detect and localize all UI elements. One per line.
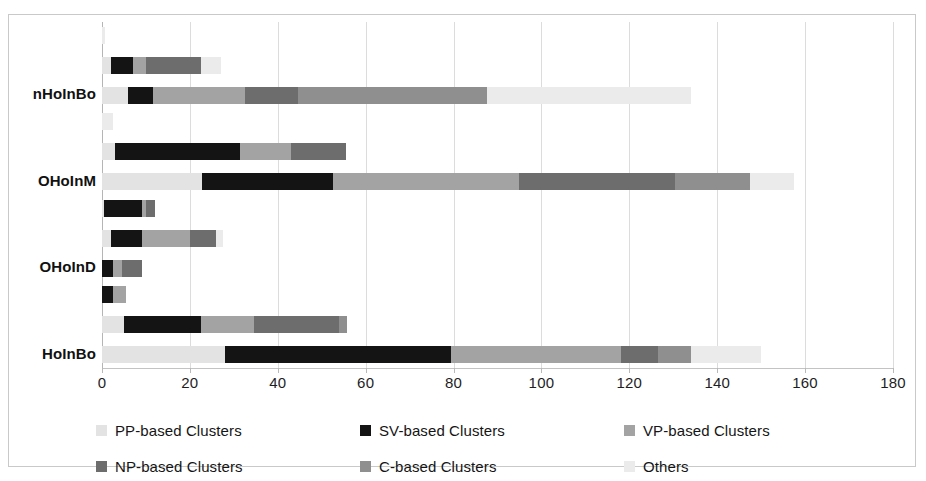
gridline [805,22,806,368]
bar-segment [124,316,201,333]
bar-segment [102,87,128,104]
gridline [454,22,455,368]
bar-segment [133,57,146,74]
bar-segment [102,346,225,363]
bar-segment [519,173,675,190]
gridline [366,22,367,368]
category-label-ohoinm: OHoInM [0,172,96,189]
x-axis-tick-label: 60 [336,374,396,391]
bar-segment [225,346,451,363]
bar-segment [111,230,142,247]
bar-segment [153,87,245,104]
category-label-nhoinbo: nHoInBo [0,85,96,102]
x-axis-tick-mark [454,368,455,373]
x-axis-tick-label: 140 [687,374,747,391]
legend-label: C-based Clusters [379,458,496,475]
bar-segment [142,230,190,247]
bar-segment [122,260,142,277]
bar-segment [102,316,124,333]
stacked-bar-chart: 020406080100120140160180 nHoInBoOHoInMOH… [0,0,926,481]
chart-legend: PP-based ClustersSV-based ClustersVP-bas… [96,412,896,481]
category-label-ohoind: OHoInD [0,258,96,275]
bar-segment [113,286,126,303]
x-axis-tick-label: 160 [775,374,835,391]
legend-item[interactable]: C-based Clusters [360,458,624,475]
legend-label: NP-based Clusters [115,458,243,475]
bar-segment [675,173,750,190]
x-axis-tick-label: 80 [424,374,484,391]
legend-swatch-icon [96,425,107,436]
legend-label: PP-based Clusters [115,422,242,439]
bar-segment [750,173,794,190]
bar-segment [202,173,333,190]
bar-segment [111,57,133,74]
legend-swatch-icon [624,425,635,436]
legend-label: SV-based Clusters [379,422,505,439]
legend-item[interactable]: PP-based Clusters [96,422,360,439]
gridline [541,22,542,368]
gridline [717,22,718,368]
x-axis-tick-label: 100 [511,374,571,391]
x-axis-tick-label: 20 [160,374,220,391]
bar-segment [254,316,340,333]
bar-segment [102,173,202,190]
legend-swatch-icon [96,461,107,472]
bar-segment [104,200,141,217]
x-axis-tick-mark [717,368,718,373]
bar-segment [113,260,122,277]
x-axis-tick-mark [366,368,367,373]
bar-segment [201,57,221,74]
x-axis-tick-mark [629,368,630,373]
x-axis-tick-label: 0 [72,374,132,391]
gridline [629,22,630,368]
x-axis-tick-label: 180 [863,374,923,391]
legend-label: VP-based Clusters [643,422,770,439]
x-axis-tick-mark [805,368,806,373]
bar-segment [339,316,347,333]
bar-segment [146,200,155,217]
bar-segment [240,143,291,160]
x-axis-tick-mark [278,368,279,373]
legend-item[interactable]: Others [624,458,888,475]
bar-segment [190,230,216,247]
legend-item[interactable]: NP-based Clusters [96,458,360,475]
bar-segment [102,230,111,247]
bar-segment [128,87,152,104]
gridline [893,22,894,368]
bar-segment [115,143,240,160]
bar-segment [658,346,691,363]
bar-segment [102,260,113,277]
legend-item[interactable]: VP-based Clusters [624,422,888,439]
bar-segment [621,346,658,363]
bar-segment [487,87,691,104]
category-label-hoinbo: HoInBo [0,345,96,362]
bar-segment [451,346,620,363]
bar-segment [291,143,346,160]
x-axis-line [102,368,894,369]
bar-segment [333,173,520,190]
x-axis-tick-mark [893,368,894,373]
bar-segment [146,57,201,74]
x-axis-tick-mark [541,368,542,373]
x-axis-tick-mark [190,368,191,373]
legend-swatch-icon [360,461,371,472]
x-axis-tick-label: 40 [248,374,308,391]
bar-segment [102,57,111,74]
bar-segment [102,286,113,303]
bar-segment [102,27,105,44]
legend-item[interactable]: SV-based Clusters [360,422,624,439]
legend-label: Others [643,458,689,475]
legend-swatch-icon [624,461,635,472]
bar-segment [245,87,298,104]
bar-segment [201,316,254,333]
bar-segment [298,87,487,104]
x-axis-tick-mark [102,368,103,373]
legend-swatch-icon [360,425,371,436]
bar-segment [102,143,115,160]
x-axis-tick-label: 120 [599,374,659,391]
bar-segment [216,230,223,247]
bar-segment [691,346,761,363]
bar-segment [102,113,113,130]
